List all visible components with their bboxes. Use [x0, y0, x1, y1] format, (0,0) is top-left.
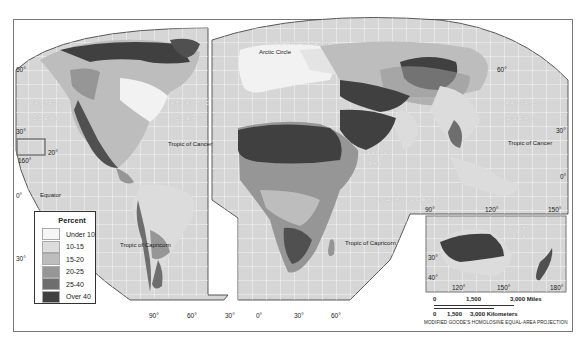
- lat-30s-left: 30°: [16, 255, 26, 262]
- lat-0-right: 0°: [560, 173, 566, 180]
- scale-bar: 0 1,500 3,000 Miles 0 1,500 3,000 Kilome…: [428, 296, 578, 332]
- legend-item-20-25: 20-25: [42, 266, 84, 278]
- tropic-of-cancer-right-label: Tropic of Cancer: [508, 140, 552, 146]
- legend-label: Over 40: [66, 293, 91, 300]
- lat-30-right: 30°: [556, 127, 566, 134]
- lon-120-asia: 120°: [485, 206, 498, 213]
- lon-60-sa: 60°: [187, 312, 197, 319]
- legend-label: 15-20: [66, 256, 84, 263]
- coral-sea-label: Coral: [508, 224, 530, 230]
- tropic-of-capricorn-right-label: Tropic of Capricorn: [345, 240, 396, 246]
- legend-label: Under 10: [66, 231, 95, 238]
- legend: Percent Under 10 10-15 15-20 20-25 25-40…: [34, 211, 96, 304]
- equator-label: Equator: [40, 192, 61, 198]
- legend-label: 10-15: [66, 243, 84, 250]
- legend-title: Percent: [35, 216, 95, 225]
- legend-label: 20-25: [66, 268, 84, 275]
- legend-swatch: [42, 228, 60, 240]
- lon-0-af: 0°: [256, 312, 262, 319]
- legend-swatch: [42, 291, 60, 303]
- scale-line: [434, 305, 514, 306]
- scale-km-3000: 3,000 Kilometers: [470, 311, 518, 317]
- lon-90-asia: 90°: [425, 206, 435, 213]
- tropic-of-cancer-left-label: Tropic of Cancer: [168, 141, 212, 147]
- lat-40-aus: 40°: [428, 274, 438, 281]
- legend-swatch: [42, 266, 60, 278]
- legend-item-under-10: Under 10: [42, 228, 95, 240]
- lon-30-af: 30°: [294, 312, 304, 319]
- lat-0-left: 0°: [16, 192, 22, 199]
- lon-90-sa: 90°: [149, 312, 159, 319]
- scale-line-km: [434, 308, 494, 309]
- legend-label: 25-40: [66, 281, 84, 288]
- legend-swatch: [42, 241, 60, 253]
- indian-ocean-label: INDIAN OCEAN: [377, 196, 438, 202]
- arctic-circle-label: Arctic Circle: [259, 49, 291, 55]
- atlantic-ocean-label-2: OCEAN: [174, 115, 203, 121]
- lon-160-inset: 160°: [18, 157, 31, 164]
- legend-swatch: [42, 253, 60, 265]
- lon-60-af: 60°: [331, 312, 341, 319]
- arabian-sea-label-2: Sea: [368, 160, 383, 166]
- lat-60-right: 60°: [497, 66, 507, 73]
- scale-miles-1500: 1,500: [466, 296, 481, 302]
- pacific-ocean-left-label-2: OCEAN: [32, 115, 61, 121]
- lat-30-left: 30°: [16, 128, 26, 135]
- scale-miles-0: 0: [433, 296, 436, 302]
- atlantic-ocean-label: ATLANTIC: [170, 100, 211, 106]
- lat-60-left: 60°: [16, 66, 26, 73]
- legend-item-15-20: 15-20: [42, 253, 84, 265]
- scale-miles-3000: 3,000 Miles: [510, 296, 542, 302]
- projection-note: MODIFIED GOODE'S HOMOLOSINE EQUAL-AREA P…: [424, 320, 568, 325]
- scale-km-0: 0: [433, 311, 436, 317]
- tropic-of-capricorn-left-label: Tropic of Capricorn: [120, 242, 171, 248]
- arabian-sea-label: Arabian: [362, 150, 393, 156]
- legend-item-over-40: Over 40: [42, 291, 91, 303]
- scale-km-1500: 1,500: [447, 311, 462, 317]
- pacific-ocean-right-label-2: OCEAN: [506, 115, 535, 121]
- lat-30-aus: 30°: [428, 254, 438, 261]
- lon-150-asia: 150°: [548, 206, 561, 213]
- lon-120-aus: 120°: [452, 284, 465, 291]
- lon-30-sa: 30°: [225, 312, 235, 319]
- lon-150-aus: 150°: [497, 284, 510, 291]
- legend-item-10-15: 10-15: [42, 241, 84, 253]
- arctic-ocean-label: ARCTIC OCEAN: [268, 40, 331, 46]
- lon-180-aus: 180°: [550, 284, 563, 291]
- legend-item-25-40: 25-40: [42, 278, 84, 290]
- coral-sea-label-2: Sea: [512, 233, 527, 239]
- pacific-ocean-right-label: PACIFIC: [505, 100, 539, 106]
- legend-swatch: [42, 278, 60, 290]
- pacific-ocean-left-label: PACIFIC: [29, 100, 63, 106]
- lat-20-inset: 20°: [48, 149, 58, 156]
